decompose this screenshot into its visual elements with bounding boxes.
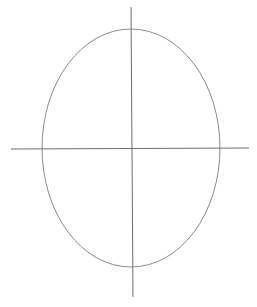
vertical-axis-line xyxy=(131,7,133,297)
ellipse-diagram xyxy=(0,0,257,307)
horizontal-axis-line xyxy=(11,148,249,149)
